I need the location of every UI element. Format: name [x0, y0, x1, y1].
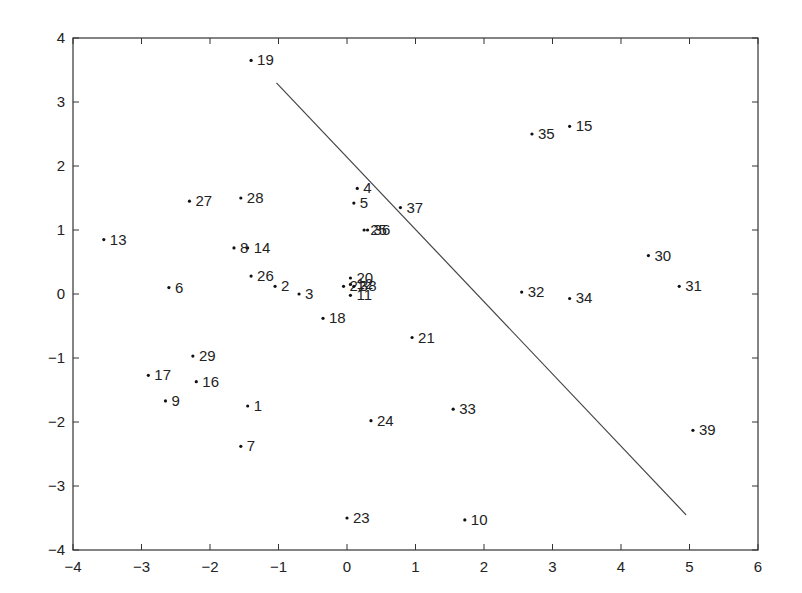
point-marker	[568, 297, 571, 300]
x-tick-label: −1	[270, 558, 287, 575]
point-marker	[250, 59, 253, 62]
y-tick-label: −4	[48, 541, 65, 558]
point-label: 18	[329, 309, 346, 326]
point-marker	[399, 206, 402, 209]
point-label: 28	[247, 189, 264, 206]
y-tick-label: −3	[48, 477, 65, 494]
point-label: 9	[171, 392, 179, 409]
point-label: 10	[471, 511, 488, 528]
point-marker	[410, 336, 413, 339]
point-label: 16	[202, 373, 219, 390]
point-marker	[250, 274, 253, 277]
point-marker	[520, 290, 523, 293]
point-label: 3	[305, 285, 313, 302]
point-label: 39	[699, 421, 716, 438]
x-tick-label: −2	[201, 558, 218, 575]
data-points: 1234567891011121314151617181920212223242…	[102, 51, 715, 528]
point-label: 23	[353, 509, 370, 526]
point-marker	[647, 254, 650, 257]
data-point: 1	[246, 397, 262, 414]
data-point: 5	[352, 194, 368, 211]
data-point: 35	[530, 125, 554, 142]
point-marker	[164, 399, 167, 402]
point-marker	[352, 285, 355, 288]
point-marker	[568, 125, 571, 128]
x-tick-label: −3	[133, 558, 150, 575]
point-marker	[463, 518, 466, 521]
data-point: 33	[452, 400, 476, 417]
point-marker	[297, 292, 300, 295]
data-point: 18	[321, 309, 345, 326]
data-point: 19	[250, 51, 274, 68]
x-axis: −4−3−2−10123456	[64, 38, 762, 575]
point-marker	[246, 404, 249, 407]
x-tick-label: −4	[64, 558, 81, 575]
point-marker	[239, 445, 242, 448]
data-point: 31	[678, 277, 702, 294]
point-marker	[691, 429, 694, 432]
point-label: 1	[254, 397, 262, 414]
x-tick-label: 1	[411, 558, 419, 575]
y-tick-label: 2	[57, 157, 65, 174]
y-tick-label: 0	[57, 285, 65, 302]
point-label: 33	[459, 400, 476, 417]
x-tick-label: 2	[480, 558, 488, 575]
data-point: 26	[250, 267, 274, 284]
point-marker	[530, 132, 533, 135]
y-tick-label: 1	[57, 221, 65, 238]
data-point: 21	[410, 329, 434, 346]
x-tick-label: 3	[548, 558, 556, 575]
point-label: 21	[418, 329, 435, 346]
data-point: 34	[568, 289, 592, 306]
point-marker	[191, 354, 194, 357]
data-point: 7	[239, 437, 255, 454]
point-marker	[167, 286, 170, 289]
data-point: 29	[191, 347, 215, 364]
data-point: 8	[232, 239, 248, 256]
x-tick-label: 5	[685, 558, 693, 575]
point-marker	[452, 408, 455, 411]
point-label: 29	[199, 347, 216, 364]
data-point: 27	[188, 192, 212, 209]
point-marker	[102, 238, 105, 241]
point-label: 27	[195, 192, 212, 209]
point-marker	[147, 374, 150, 377]
point-label: 17	[154, 366, 171, 383]
point-marker	[246, 246, 249, 249]
decision-boundary-line	[276, 83, 686, 515]
point-label: 31	[685, 277, 702, 294]
point-marker	[273, 285, 276, 288]
data-point: 3	[297, 285, 313, 302]
point-label: 26	[257, 267, 274, 284]
point-label: 34	[576, 289, 593, 306]
point-marker	[678, 285, 681, 288]
point-label: 19	[257, 51, 274, 68]
point-marker	[352, 202, 355, 205]
point-marker	[366, 228, 369, 231]
data-point: 39	[691, 421, 715, 438]
point-label: 30	[654, 247, 671, 264]
data-point: 2	[273, 277, 289, 294]
point-marker	[356, 187, 359, 190]
point-marker	[321, 317, 324, 320]
point-label: 36	[374, 221, 391, 238]
x-tick-label: 0	[343, 558, 351, 575]
point-marker	[232, 246, 235, 249]
x-tick-label: 4	[617, 558, 625, 575]
scatter-chart: −4−3−2−10123456 −4−3−2−101234 1234567891…	[0, 0, 802, 593]
data-point: 32	[520, 283, 544, 300]
data-point: 17	[147, 366, 171, 383]
point-marker	[188, 200, 191, 203]
y-tick-label: 4	[57, 29, 65, 46]
x-tick-label: 6	[754, 558, 762, 575]
y-tick-label: 3	[57, 93, 65, 110]
point-label: 5	[360, 194, 368, 211]
point-label: 32	[528, 283, 545, 300]
data-point: 28	[239, 189, 263, 206]
data-point: 16	[195, 373, 219, 390]
point-label: 14	[254, 239, 271, 256]
point-marker	[342, 285, 345, 288]
point-label: 37	[406, 199, 423, 216]
data-point: 23	[345, 509, 369, 526]
point-marker	[363, 228, 366, 231]
